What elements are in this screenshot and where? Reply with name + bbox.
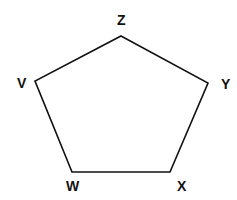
vertex-label-x: X xyxy=(177,178,187,194)
pentagon-shape xyxy=(35,36,208,172)
vertex-label-y: Y xyxy=(221,76,231,92)
vertex-label-w: W xyxy=(66,178,80,194)
pentagon-diagram: Z Y X W V xyxy=(0,0,237,200)
vertex-label-z: Z xyxy=(117,12,126,28)
vertex-label-v: V xyxy=(17,75,27,91)
